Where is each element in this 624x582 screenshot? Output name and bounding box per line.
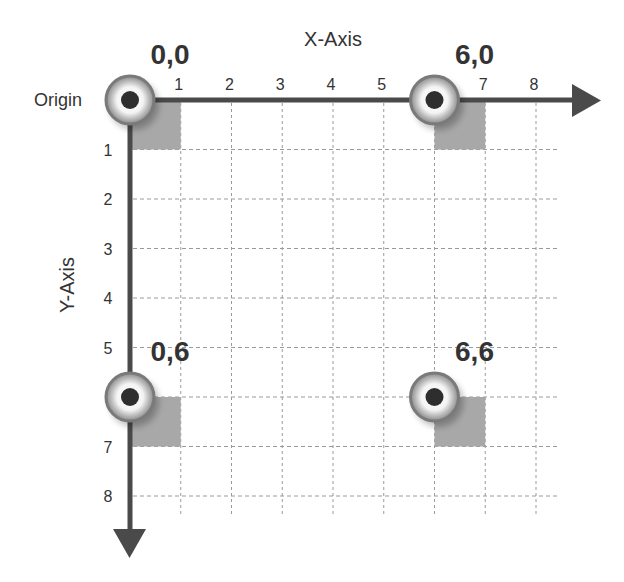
y-tick-label: 5 bbox=[104, 340, 113, 357]
origin-label: Origin bbox=[34, 90, 82, 110]
y-axis-title: Y-Axis bbox=[56, 257, 78, 313]
point-marker bbox=[411, 373, 464, 427]
point-coordinate-label: 6,0 bbox=[455, 39, 494, 70]
coordinate-diagram: X-AxisY-AxisOrigin123457812345780,06,00,… bbox=[0, 0, 624, 582]
x-tick-label: 8 bbox=[530, 76, 539, 93]
point-dot-icon bbox=[121, 91, 139, 109]
point-marker bbox=[106, 373, 159, 427]
y-tick-label: 3 bbox=[104, 241, 113, 258]
y-tick-label: 2 bbox=[104, 191, 113, 208]
y-tick-label: 4 bbox=[104, 290, 113, 307]
y-axis-arrow-icon bbox=[113, 529, 146, 558]
y-tick-label: 8 bbox=[104, 488, 113, 505]
x-axis-title: X-Axis bbox=[304, 28, 362, 50]
y-tick-label: 7 bbox=[104, 439, 113, 456]
y-tick-label: 1 bbox=[104, 142, 113, 159]
point-coordinate-label: 0,0 bbox=[151, 39, 190, 70]
axes bbox=[113, 84, 601, 558]
x-tick-label: 4 bbox=[327, 76, 336, 93]
grid-lines bbox=[133, 103, 557, 517]
x-tick-label: 5 bbox=[377, 76, 386, 93]
point-marker bbox=[106, 76, 159, 130]
point-coordinate-label: 6,6 bbox=[455, 336, 494, 367]
point-coordinate-label: 0,6 bbox=[151, 336, 190, 367]
point-dot-icon bbox=[121, 388, 139, 406]
x-axis-arrow-icon bbox=[572, 84, 601, 117]
point-dot-icon bbox=[426, 91, 444, 109]
point-dot-icon bbox=[426, 388, 444, 406]
x-tick-label: 1 bbox=[174, 76, 183, 93]
point-marker bbox=[411, 76, 464, 130]
x-tick-label: 3 bbox=[276, 76, 285, 93]
x-tick-label: 7 bbox=[479, 76, 488, 93]
x-tick-label: 2 bbox=[225, 76, 234, 93]
